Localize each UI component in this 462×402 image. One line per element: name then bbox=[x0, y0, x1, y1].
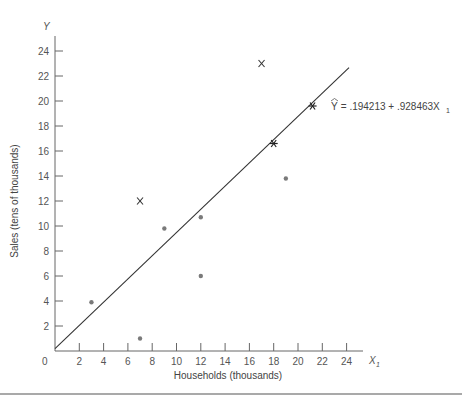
x-tick-label: 20 bbox=[292, 356, 304, 367]
x-tick-label: 22 bbox=[317, 356, 329, 367]
bottom-divider bbox=[0, 393, 462, 395]
x-tick-label: 14 bbox=[220, 356, 232, 367]
dot-marker-icon bbox=[138, 336, 142, 340]
fitted-line bbox=[55, 68, 349, 349]
x-tick-label: 16 bbox=[244, 356, 256, 367]
x-tick-label: 2 bbox=[77, 356, 83, 367]
x-tick-label: 18 bbox=[268, 356, 280, 367]
dot-marker-icon bbox=[162, 226, 166, 230]
regression-line bbox=[55, 68, 349, 349]
svg-text:X: X bbox=[368, 355, 376, 366]
dot-marker-icon bbox=[284, 176, 288, 180]
y-axis-variable: Y bbox=[43, 21, 51, 32]
y-tick-label: 18 bbox=[38, 121, 50, 132]
y-tick-label: 8 bbox=[43, 246, 49, 257]
dot-marker-icon bbox=[199, 274, 203, 278]
regression-equation: Y = .194213 + .928463X 1 bbox=[331, 99, 450, 115]
x-tick-label: 12 bbox=[195, 356, 207, 367]
star-marker-icon bbox=[309, 103, 317, 110]
data-points bbox=[89, 60, 316, 341]
origin-label: 0 bbox=[42, 356, 48, 367]
equation-subscript: 1 bbox=[446, 107, 450, 114]
dot-marker-icon bbox=[89, 300, 93, 304]
y-tick-label: 4 bbox=[43, 296, 49, 307]
y-tick-label: 6 bbox=[43, 271, 49, 282]
x-tick-label: 8 bbox=[149, 356, 155, 367]
y-tick-label: 10 bbox=[38, 221, 50, 232]
x-axis-variable: X 1 bbox=[368, 355, 380, 368]
x-marker-icon bbox=[137, 198, 143, 205]
y-tick-label: 12 bbox=[38, 196, 50, 207]
x-marker-icon bbox=[259, 60, 265, 67]
labels: Y 0 Households (thousands) Sales (tens o… bbox=[9, 21, 450, 381]
x-tick-label: 4 bbox=[101, 356, 107, 367]
y-tick-label: 14 bbox=[38, 171, 50, 182]
x-tick-label: 10 bbox=[171, 356, 183, 367]
dot-marker-icon bbox=[199, 215, 203, 219]
x-axis-title: Households (thousands) bbox=[174, 370, 282, 381]
y-tick-label: 2 bbox=[43, 321, 49, 332]
y-hat-symbol: Y bbox=[331, 101, 338, 112]
equation-text: = .194213 + .928463X bbox=[338, 101, 440, 112]
y-tick-label: 16 bbox=[38, 146, 50, 157]
y-tick-label: 24 bbox=[38, 46, 50, 57]
y-tick-label: 22 bbox=[38, 71, 50, 82]
svg-text:1: 1 bbox=[376, 361, 380, 368]
x-tick-label: 24 bbox=[341, 356, 353, 367]
y-axis-title: Sales (tens of thousands) bbox=[9, 144, 20, 257]
y-tick-label: 20 bbox=[38, 96, 50, 107]
x-tick-label: 6 bbox=[125, 356, 131, 367]
star-marker-icon bbox=[270, 140, 278, 147]
ticks: 2468101214161820222424681012141618202224 bbox=[38, 46, 353, 368]
scatter-chart: 2468101214161820222424681012141618202224… bbox=[0, 0, 462, 402]
